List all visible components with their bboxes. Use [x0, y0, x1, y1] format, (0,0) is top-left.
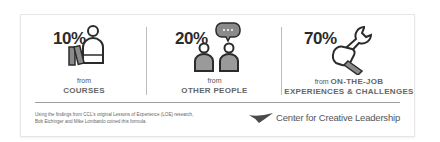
- from-on-the-job-line: from ON-THE-JOB: [282, 77, 416, 86]
- horizontal-rule: [35, 102, 400, 103]
- from-text: from: [21, 77, 147, 84]
- segment-on-the-job: 70% from ON-THE-JOB EXPERIENCES & CHALLE…: [282, 15, 416, 102]
- hand-wrench-icon: [326, 23, 382, 75]
- footnote-line-2: Bob Eichinger and Mike Lombardo coined t…: [35, 118, 235, 125]
- segment-courses: 10% from COURSES: [21, 15, 147, 102]
- ccl-swoosh-logo-icon: [249, 113, 273, 123]
- label-on-the-job: ON-THE-JOB: [331, 77, 384, 86]
- label-courses: COURSES: [21, 86, 147, 95]
- ccl-logo: Center for Creative Leadership: [249, 112, 400, 123]
- footnote-line-1: Using the findings from CCL's original L…: [35, 111, 235, 118]
- segment-other-people: 20% from OTHER PEOPLE: [147, 15, 282, 102]
- model-card: 10% from COURSES 20% from OTHER PEOPLE 7…: [20, 14, 415, 137]
- footnote: Using the findings from CCL's original L…: [35, 111, 235, 125]
- from-text: from: [315, 78, 329, 85]
- person-reading-books-icon: [67, 25, 111, 71]
- two-people-chat-icon: [192, 21, 248, 75]
- label-experiences-challenges: EXPERIENCES & CHALLENGES: [282, 87, 416, 96]
- logo-text: Center for Creative Leadership: [276, 112, 400, 123]
- label-other-people: OTHER PEOPLE: [147, 86, 282, 95]
- from-text: from: [147, 77, 282, 84]
